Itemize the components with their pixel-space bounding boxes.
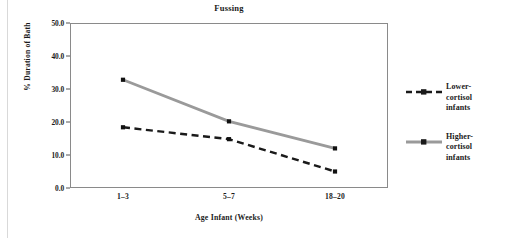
legend-label-line: cortisol xyxy=(446,93,472,104)
y-tick-label: 50.0 xyxy=(30,19,64,28)
plot-area-frame xyxy=(70,23,388,188)
legend-label-line: Lower- xyxy=(446,82,472,93)
y-tick-label: 30.0 xyxy=(30,85,64,94)
y-tick-label: 0.0 xyxy=(30,184,64,193)
legend-label-lower-cortisol: Lower- cortisol infants xyxy=(443,82,472,114)
page-margin-rule xyxy=(7,0,8,238)
legend-label-line: infants xyxy=(446,153,473,164)
x-axis-title: Age Infant (Weeks) xyxy=(70,213,388,222)
legend-entry-lower-cortisol: Lower- cortisol infants xyxy=(405,82,506,114)
legend-label-line: cortisol xyxy=(446,142,473,153)
x-tick-label: 1–3 xyxy=(93,192,153,201)
legend-swatch-solid xyxy=(405,133,443,143)
legend-swatch-dashed xyxy=(405,83,443,93)
figure-container: Fussing % Duration of Bath 50.0 40.0 30.… xyxy=(0,0,506,238)
x-tick-label: 18–20 xyxy=(305,192,365,201)
chart-title: Fussing xyxy=(70,3,388,13)
legend-label-line: infants xyxy=(446,103,472,114)
y-tick-label: 40.0 xyxy=(30,52,64,61)
legend-entry-higher-cortisol: Higher- cortisol infants xyxy=(405,132,506,164)
legend-label-higher-cortisol: Higher- cortisol infants xyxy=(443,132,473,164)
x-tick-label: 5–7 xyxy=(199,192,259,201)
legend-label-line: Higher- xyxy=(446,132,473,143)
y-axis-tick-labels: 50.0 40.0 30.0 20.0 10.0 0.0 xyxy=(28,0,64,238)
y-tick-label: 20.0 xyxy=(30,118,64,127)
y-tick-label: 10.0 xyxy=(30,151,64,160)
chart-legend: Lower- cortisol infants Higher- cortisol… xyxy=(405,82,506,181)
